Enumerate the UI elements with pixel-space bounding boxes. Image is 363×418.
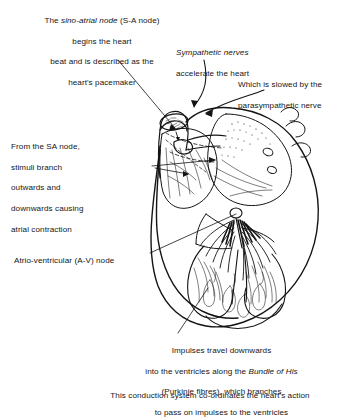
- ventricles: [188, 246, 286, 328]
- impulses-line4: to pass on impulses to the ventricles: [155, 408, 288, 417]
- left-atrium-stipple: [222, 121, 271, 157]
- sa-node-line2: begins the heart: [72, 37, 131, 46]
- av-node-and-bundle: [200, 208, 276, 280]
- trabeculae-detail: [194, 258, 276, 317]
- sa-node-line3: beat and is described as the: [50, 57, 154, 66]
- parasympathetic-leader-arrowhead: [205, 109, 213, 117]
- from-sa-line2: stimuli branch: [11, 163, 62, 172]
- from-sa-line3: outwards and: [11, 183, 61, 192]
- label-footer-caption: This conduction system co-ordinates the …: [60, 391, 360, 401]
- great-vessels: [159, 111, 227, 178]
- sa-node-line4: heart's pacemaker: [68, 78, 136, 87]
- label-parasympathetic-nerve: Which is slowed by the parasympathetic n…: [238, 70, 363, 111]
- impulses-line1: Impulses travel downwards: [172, 346, 272, 355]
- impulses-line2-italic: Bundle of His: [249, 367, 298, 376]
- impulses-line2-pre: into the ventricles along the: [145, 367, 248, 376]
- pulmonary-vein-opening-lower: [267, 165, 278, 174]
- label-impulses: Impulses travel downwards into the ventr…: [80, 336, 363, 418]
- sa-node-line1-post: (S-A node): [118, 16, 160, 25]
- sa-node-leader-arrowhead: [169, 124, 176, 131]
- sympathetic-leader-arrowhead: [191, 100, 198, 108]
- purkinje-fan-right: [242, 224, 276, 280]
- purkinje-fan-left: [200, 220, 235, 272]
- sa-node-line1-pre: The: [44, 16, 61, 25]
- sa-node-stipple: [165, 118, 183, 129]
- sa-node-line1-italic: sino-atrial node: [61, 16, 118, 25]
- atrium-striations: [166, 148, 213, 198]
- parasympathetic-line2: parasympathetic nerve: [238, 101, 322, 110]
- label-sa-node: The sino-atrial node (S-A node) begins t…: [8, 6, 196, 88]
- internodal-dashed-tract: [166, 133, 222, 162]
- from-sa-leader-line: [152, 160, 215, 166]
- bundle-branch-wedge: [222, 220, 260, 246]
- left-atrium: [208, 108, 311, 206]
- from-sa-line5: atrial contraction: [11, 225, 72, 234]
- from-sa-line1: From the SA node,: [11, 142, 80, 151]
- label-av-node: Atrio-ventricular (A-V) node: [14, 256, 174, 266]
- parasympathetic-line1: Which is slowed by the: [238, 80, 322, 89]
- av-node-leader-line: [150, 214, 236, 253]
- bundle-of-his: [236, 218, 242, 248]
- pulmonary-vein-opening-upper: [262, 147, 274, 157]
- impulses-leader-line: [178, 288, 208, 333]
- valve-leaflets: [196, 214, 274, 249]
- from-sa-leader-arrowhead: [209, 157, 216, 163]
- heart-outline: [151, 108, 318, 327]
- label-from-sa-node: From the SA node, stimuli branch outward…: [11, 132, 151, 235]
- sympathetic-line1: Sympathetic nerves: [176, 48, 249, 57]
- from-sa-line4: downwards causing: [11, 204, 83, 213]
- av-node: [230, 208, 242, 218]
- right-atrium: [160, 128, 217, 208]
